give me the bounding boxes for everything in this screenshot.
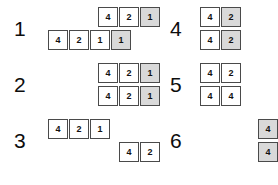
group-label: 4 <box>170 18 200 39</box>
cell-row: 4 <box>200 119 278 139</box>
grid-cell[interactable]: 2 <box>119 86 139 106</box>
grid-cell[interactable]: 2 <box>119 7 139 27</box>
group-rows: 421421 <box>48 63 160 106</box>
cell-row: 421 <box>48 7 160 27</box>
grid-cell-shaded[interactable]: 1 <box>111 30 131 50</box>
cell-row: 42 <box>200 7 278 27</box>
grid-cell-shaded[interactable]: 1 <box>140 86 160 106</box>
grid-cell-shaded[interactable]: 4 <box>258 142 278 162</box>
cell-row: 42 <box>200 30 278 50</box>
group-label: 1 <box>14 18 48 39</box>
grid-cell[interactable]: 4 <box>98 86 118 106</box>
group-label: 6 <box>170 130 200 151</box>
grid-cell[interactable]: 4 <box>48 119 68 139</box>
group-2: 2421421 <box>14 56 160 112</box>
grid-cell[interactable]: 4 <box>200 7 220 27</box>
cell-row: 421 <box>48 63 160 83</box>
cell-sequence-figure: 1421421124214213421424424254244644 <box>0 0 278 185</box>
grid-cell-shaded[interactable]: 1 <box>140 7 160 27</box>
grid-cell[interactable]: 4 <box>48 30 68 50</box>
group-label: 3 <box>14 130 48 151</box>
group-rows: 4244 <box>200 63 278 106</box>
group-rows: 44 <box>200 119 278 162</box>
group-label: 5 <box>170 74 200 95</box>
grid-cell[interactable]: 4 <box>98 63 118 83</box>
group-5: 54244 <box>170 56 278 112</box>
group-4: 44242 <box>170 0 278 56</box>
cell-row: 44 <box>200 86 278 106</box>
grid-cell[interactable]: 2 <box>140 142 160 162</box>
group-6: 644 <box>170 112 278 168</box>
cell-row: 4 <box>200 142 278 162</box>
figure-column-right: 4424254244644 <box>160 0 278 185</box>
cell-row: 421 <box>48 86 160 106</box>
grid-cell[interactable]: 4 <box>98 7 118 27</box>
figure-column-left: 142142112421421342142 <box>0 0 160 185</box>
group-rows: 4214211 <box>48 7 160 50</box>
group-rows: 4242 <box>200 7 278 50</box>
grid-cell[interactable]: 2 <box>119 63 139 83</box>
cell-row: 42 <box>200 63 278 83</box>
grid-cell[interactable]: 2 <box>69 30 89 50</box>
grid-cell-shaded[interactable]: 2 <box>221 30 241 50</box>
grid-cell[interactable]: 1 <box>90 30 110 50</box>
grid-cell[interactable]: 4 <box>200 63 220 83</box>
cell-row: 421 <box>48 119 160 139</box>
grid-cell-shaded[interactable]: 4 <box>258 119 278 139</box>
group-3: 342142 <box>14 112 160 168</box>
grid-cell[interactable]: 4 <box>119 142 139 162</box>
grid-cell[interactable]: 2 <box>69 119 89 139</box>
cell-row: 4211 <box>48 30 160 50</box>
cell-row: 42 <box>48 142 160 162</box>
grid-cell-shaded[interactable]: 2 <box>221 7 241 27</box>
grid-cell-shaded[interactable]: 1 <box>140 63 160 83</box>
grid-cell[interactable]: 4 <box>221 86 241 106</box>
grid-cell[interactable]: 4 <box>200 30 220 50</box>
grid-cell[interactable]: 2 <box>221 63 241 83</box>
grid-cell[interactable]: 1 <box>90 119 110 139</box>
group-rows: 42142 <box>48 119 160 162</box>
group-label: 2 <box>14 74 48 95</box>
group-1: 14214211 <box>14 0 160 56</box>
grid-cell[interactable]: 4 <box>200 86 220 106</box>
